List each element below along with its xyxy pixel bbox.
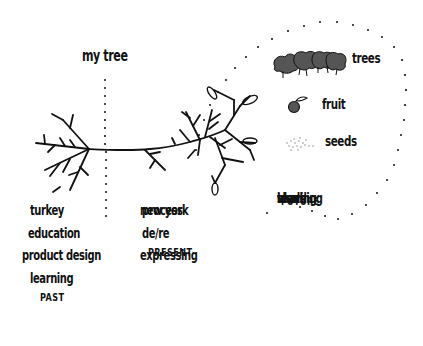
trees-icon — [274, 51, 346, 78]
present-label: PRESENT — [148, 246, 192, 259]
legend-label-fruit: fruit — [322, 96, 345, 112]
legend-label-seeds: seeds — [325, 133, 357, 149]
seeds-icon — [286, 137, 313, 150]
diagram-canvas: my tree trees fruit seeds turkey educati… — [0, 0, 423, 346]
legend-label-trees: trees — [352, 50, 380, 66]
past-item-4: learning — [30, 267, 109, 290]
branch — [36, 90, 255, 192]
past-item-2: education — [28, 222, 107, 245]
present-item-3: de/re — [142, 222, 186, 245]
past-item-1: turkey — [30, 199, 109, 222]
divider-line — [104, 79, 107, 217]
column-future: world teaching ideas sharing FUTURE — [277, 187, 324, 208]
diagram-title: my tree — [82, 47, 127, 65]
fruit-icon — [289, 97, 308, 113]
past-label: PAST — [40, 291, 119, 304]
past-item-3: product design — [22, 244, 101, 267]
column-past: turkey education product design learning… — [24, 199, 120, 304]
column-present: new york process de/re expressing PRESEN… — [140, 199, 194, 259]
present-item-2: process — [142, 199, 186, 222]
future-label: FUTURE — [281, 195, 320, 208]
